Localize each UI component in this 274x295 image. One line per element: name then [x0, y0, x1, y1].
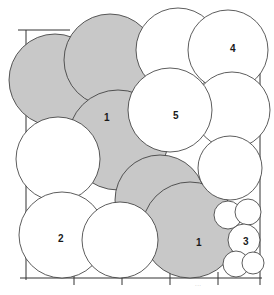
caption: ... [195, 281, 202, 287]
label-zone-4: 4 [230, 43, 236, 54]
label-zone-1-upper: 1 [104, 112, 110, 123]
circle-packing-diagram: 1 1 2 3 4 5 [0, 0, 274, 295]
label-zone-3: 3 [243, 236, 249, 247]
label-zone-2: 2 [58, 233, 64, 244]
label-zone-1-lower: 1 [196, 237, 202, 248]
label-zone-5: 5 [173, 110, 179, 121]
